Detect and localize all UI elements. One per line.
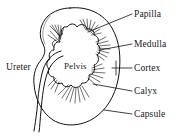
kidney-diagram-page: Papilla Medulla Cortex Calyx Capsule Ure… xyxy=(0,0,182,137)
medulla-striations-upper-right xyxy=(80,19,101,35)
ureter-tube-outer xyxy=(34,51,61,131)
label-calyx: Calyx xyxy=(134,87,157,97)
label-pelvis: Pelvis xyxy=(64,62,87,71)
leader-line-medulla xyxy=(100,44,132,50)
label-ureter: Ureter xyxy=(6,63,31,73)
label-capsule: Capsule xyxy=(134,110,165,120)
label-papilla: Papilla xyxy=(134,10,161,20)
leader-line-calyx xyxy=(93,84,132,91)
leader-line-capsule xyxy=(104,110,132,114)
label-medulla: Medulla xyxy=(134,40,166,50)
medulla-striations-bottom xyxy=(58,85,89,103)
cortex-inner-arc xyxy=(43,16,50,44)
medulla-striations-lower-left xyxy=(48,78,59,92)
label-cortex: Cortex xyxy=(134,64,160,74)
renal-pelvis-outline xyxy=(47,24,100,87)
